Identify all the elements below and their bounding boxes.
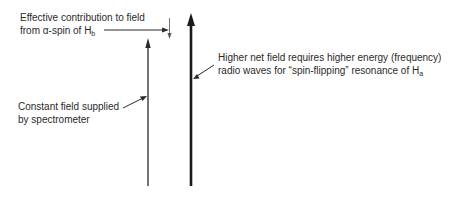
contribution-arrow [168, 18, 172, 39]
higher-line-2: radio waves for “spin-flipping” resonanc… [218, 64, 441, 77]
higher-line-1: Higher net field requires higher energy … [218, 51, 441, 64]
constant-field-arrow [145, 38, 150, 186]
higher-field-label: Higher net field requires higher energy … [218, 51, 441, 77]
constant-line-2: by spectrometer [18, 113, 119, 126]
effective-contribution-label: Effective contribution to field from α-s… [20, 11, 145, 37]
effective-line-2: from α-spin of Hb [20, 24, 145, 37]
effective-line-1: Effective contribution to field [20, 11, 145, 24]
net-field-arrow [187, 13, 195, 186]
effective-line-2-text: from α-spin of H [20, 25, 91, 36]
higher-subscript: a [419, 70, 423, 77]
constant-leader-arrow [123, 96, 147, 108]
effective-subscript: b [91, 30, 95, 37]
higher-line-2-text: radio waves for “spin-flipping” resonanc… [218, 65, 419, 76]
constant-field-label: Constant field supplied by spectrometer [18, 100, 119, 126]
constant-line-1: Constant field supplied [18, 100, 119, 113]
higher-leader-arrow [193, 65, 214, 79]
